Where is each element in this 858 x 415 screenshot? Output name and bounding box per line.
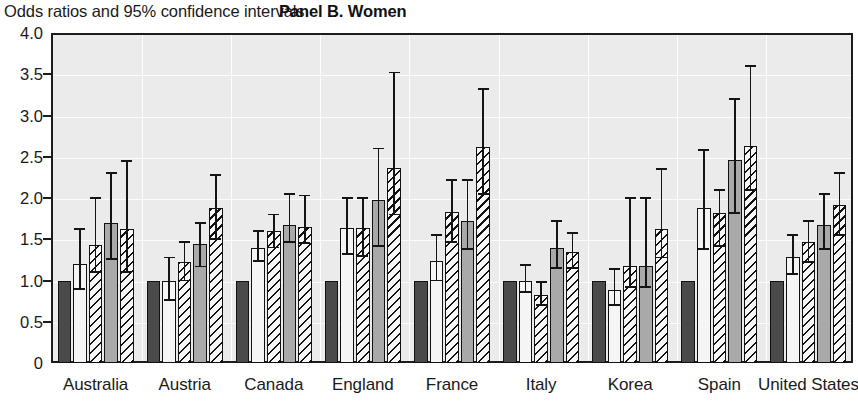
y-tick-label: 2.0 [20, 189, 43, 208]
bar [325, 281, 339, 364]
error-bar-line [614, 269, 616, 305]
error-bar-cap-upper [567, 232, 578, 234]
x-tick-label: Italy [526, 375, 557, 395]
error-bar-cap-lower [609, 304, 620, 306]
error-bar-line [110, 173, 112, 259]
bar-column [770, 33, 784, 363]
error-bar-cap-lower [520, 291, 531, 293]
error-bar-line [556, 221, 558, 268]
bar-column [104, 33, 118, 363]
error-bar-line [482, 89, 484, 194]
bar-column [325, 33, 339, 363]
bar [592, 281, 606, 364]
bars-layer [51, 33, 853, 363]
error-bar-cap-upper [389, 72, 400, 74]
bar-column [147, 33, 161, 363]
bar [267, 231, 281, 363]
error-bar-cap-lower [714, 245, 725, 247]
bar [681, 281, 695, 364]
error-bar-cap-upper [164, 257, 175, 259]
error-bar-cap-lower [164, 299, 175, 301]
y-tick-label: 3.5 [20, 65, 43, 84]
bar-column [476, 33, 490, 363]
y-axis: 4.03.53.02.52.01.51.00.50 [0, 0, 51, 415]
error-bar-line [168, 257, 170, 300]
bar-column [73, 33, 87, 363]
bar [147, 281, 161, 364]
bar-column [681, 33, 695, 363]
y-tick-label: 3.0 [20, 106, 43, 125]
bar-column [430, 33, 444, 363]
error-bar-cap-upper [268, 214, 279, 216]
error-bar-cap-upper [195, 222, 206, 224]
error-bar-line [273, 215, 275, 248]
error-bar-cap-lower [478, 193, 489, 195]
bar-column [445, 33, 459, 363]
error-bar-cap-lower [446, 241, 457, 243]
bar [503, 281, 517, 364]
bar-group [147, 33, 223, 363]
error-bar-cap-lower [551, 267, 562, 269]
error-bar-cap-upper [106, 172, 117, 174]
bar-group [503, 33, 579, 363]
error-bar-line [362, 198, 364, 256]
error-bar-cap-upper [745, 65, 756, 67]
error-bar-line [703, 150, 705, 249]
panel-title: Panel B. Women [279, 2, 407, 21]
error-bar-cap-upper [284, 193, 295, 195]
bar-column [608, 33, 622, 363]
error-bar-line [750, 66, 752, 190]
error-bar-line [525, 265, 527, 292]
bar-column [817, 33, 831, 363]
y-tick-label: 2.5 [20, 147, 43, 166]
x-tick-label: Spain [698, 375, 741, 395]
bar-column [251, 33, 265, 363]
error-bar-cap-lower [745, 189, 756, 191]
chart-header: Odds ratios and 95% confidence intervals… [0, 0, 858, 26]
bar-column [655, 33, 669, 363]
bar-column [639, 33, 653, 363]
error-bar-cap-lower [179, 280, 190, 282]
bar-column [236, 33, 250, 363]
error-bar-cap-upper [446, 179, 457, 181]
error-bar-line [823, 194, 825, 249]
error-bar-line [257, 231, 259, 261]
bar [414, 281, 428, 364]
bar-column [193, 33, 207, 363]
error-bar-cap-upper [625, 197, 636, 199]
error-bar-line [346, 198, 348, 254]
error-bar-line [467, 180, 469, 249]
x-tick-label: Canada [244, 375, 303, 395]
bar-group [58, 33, 134, 363]
bar-column [728, 33, 742, 363]
error-bar-line [393, 73, 395, 215]
bar-column [178, 33, 192, 363]
bar-column [697, 33, 711, 363]
error-bar-cap-upper [640, 197, 651, 199]
error-bar-line [719, 190, 721, 246]
error-bar-cap-lower [106, 258, 117, 260]
error-bar-cap-upper [834, 172, 845, 174]
error-bar-line [808, 221, 810, 262]
error-bar-cap-lower [253, 260, 264, 262]
bar-column [744, 33, 758, 363]
bar-column [534, 33, 548, 363]
error-bar-cap-upper [520, 264, 531, 266]
bar-column [340, 33, 354, 363]
y-tick-label: 1.0 [20, 271, 43, 290]
error-bar-cap-upper [698, 149, 709, 151]
error-bar-line [289, 194, 291, 242]
error-bar-cap-lower [121, 271, 132, 273]
bar-column [802, 33, 816, 363]
bar-column [550, 33, 564, 363]
x-tick-label: Australia [63, 375, 128, 395]
bar [770, 281, 784, 364]
error-bar-cap-lower [787, 273, 798, 275]
y-tick-label: 0 [34, 354, 43, 373]
error-bar-line [451, 180, 453, 242]
error-bar-cap-lower [357, 255, 368, 257]
x-tick-label: Korea [608, 375, 653, 395]
error-bar-cap-lower [834, 234, 845, 236]
error-bar-cap-lower [462, 248, 473, 250]
bar-column [623, 33, 637, 363]
